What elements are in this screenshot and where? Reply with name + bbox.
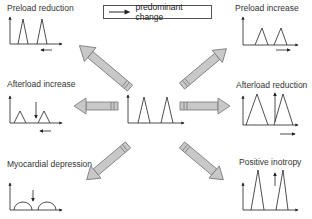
arrow-to-preload-reduction [74,39,136,95]
graph-myocardial-depression [10,183,62,210]
graph-preload-increase [243,17,298,50]
graph-baseline [128,95,184,123]
arrow-to-afterload-increase [74,98,118,114]
graph-preload-reduction [10,17,62,50]
arrow-to-preload-increase [177,43,232,93]
graph-afterload-increase [10,96,62,131]
diagram-canvas [0,0,312,219]
arrow-to-positive-inotropy [177,139,229,186]
arrow-to-myocardial-depression [81,139,133,186]
graph-positive-inotropy [243,170,298,210]
arrow-to-afterload-reduction [180,98,230,114]
graph-afterload-reduction [243,93,298,134]
